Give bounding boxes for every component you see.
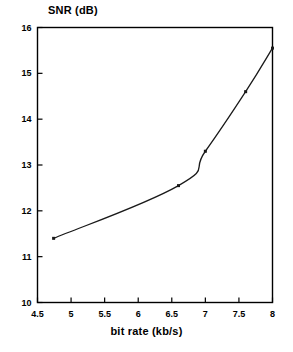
y-tick-label: 16 — [10, 23, 32, 33]
x-axis-ticks — [38, 298, 273, 303]
chart-figure: SNR (dB) 10111213141516 4.555.566.577.58… — [0, 0, 293, 352]
plot-frame — [38, 28, 273, 303]
x-tick-label: 8 — [258, 309, 288, 319]
plot-area — [0, 0, 293, 352]
y-tick-label: 13 — [10, 160, 32, 170]
x-tick-label: 7.5 — [224, 309, 254, 319]
x-tick-label: 7 — [190, 309, 220, 319]
y-tick-label: 11 — [10, 252, 32, 262]
x-tick-label: 5.5 — [90, 309, 120, 319]
y-tick-label: 12 — [10, 206, 32, 216]
x-axis-title: bit rate (kb/s) — [0, 325, 293, 337]
y-tick-label: 15 — [10, 68, 32, 78]
x-tick-label: 6.5 — [157, 309, 187, 319]
y-tick-label: 10 — [10, 298, 32, 308]
data-point-markers — [52, 47, 274, 240]
y-tick-label: 14 — [10, 114, 32, 124]
x-tick-label: 4.5 — [23, 309, 53, 319]
data-series — [54, 48, 273, 238]
y-axis-ticks — [38, 28, 43, 303]
x-tick-label: 5 — [56, 309, 86, 319]
x-tick-label: 6 — [123, 309, 153, 319]
